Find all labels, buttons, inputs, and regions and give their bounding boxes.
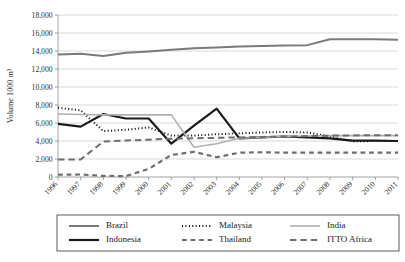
legend-item-thailand[interactable]: Thailand: [182, 234, 251, 244]
legend-item-india[interactable]: India: [290, 220, 346, 230]
x-tick-label: 2007: [292, 179, 309, 196]
legend-label: India: [327, 220, 346, 230]
x-tick-label: 2006: [269, 179, 286, 196]
series-line-indonesia: [58, 109, 398, 144]
y-tick-label: 4,000: [35, 137, 52, 146]
legend-item-brazil[interactable]: Brazil: [69, 220, 128, 230]
legend-item-indonesia[interactable]: Indonesia: [69, 234, 141, 244]
series-line-india: [58, 114, 398, 147]
legend-item-malaysia[interactable]: Malaysia: [182, 220, 252, 230]
x-tick-label: 2004: [224, 179, 241, 196]
series-line-thailand: [58, 152, 398, 176]
x-tick-label: 1996: [42, 179, 59, 196]
chart-figure: 02,0004,0006,0008,00010,00012,00014,0001…: [0, 0, 405, 262]
y-axis-tick-labels: 02,0004,0006,0008,00010,00012,00014,0001…: [32, 11, 53, 182]
y-tick-label: 12,000: [32, 65, 53, 74]
chart-legend: BrazilMalaysiaIndiaIndonesiaThailandITTO…: [57, 215, 399, 251]
gridlines-group: [58, 15, 398, 159]
legend-item-itto-africa[interactable]: ITTO Africa: [290, 234, 372, 244]
y-tick-label: 8,000: [35, 101, 52, 110]
data-series-group: [58, 39, 398, 176]
legend-label: ITTO Africa: [327, 234, 372, 244]
legend-label: Malaysia: [219, 220, 252, 230]
x-tick-label: 1998: [88, 179, 105, 196]
y-tick-label: 6,000: [35, 119, 52, 128]
x-tick-label: 2010: [360, 179, 377, 196]
legend-label: Thailand: [219, 234, 251, 244]
y-tick-label: 16,000: [32, 29, 53, 38]
legend-label: Indonesia: [106, 234, 141, 244]
x-tick-label: 1999: [110, 179, 127, 196]
x-tick-label: 2008: [314, 179, 331, 196]
x-tick-label: 2002: [178, 179, 195, 196]
x-tick-label: 2000: [133, 179, 150, 196]
y-tick-label: 18,000: [32, 11, 53, 20]
x-tick-label: 2005: [246, 179, 263, 196]
x-tick-label: 1997: [65, 179, 82, 196]
line-chart: 02,0004,0006,0008,00010,00012,00014,0001…: [0, 0, 405, 262]
x-axis-tick-labels: 1996199719981999200020012002200320042005…: [42, 179, 399, 196]
x-tick-label: 2009: [337, 179, 354, 196]
x-tick-label: 2003: [201, 179, 218, 196]
y-axis-title-text: Volume 1000 m³: [6, 68, 15, 123]
legend-label: Brazil: [106, 220, 128, 230]
y-axis-title: Volume 1000 m³: [6, 68, 15, 123]
y-tick-label: 10,000: [32, 83, 53, 92]
x-tick-label: 2011: [383, 179, 400, 196]
y-tick-label: 14,000: [32, 47, 53, 56]
y-tick-label: 2,000: [35, 155, 52, 164]
series-line-brazil: [58, 39, 398, 56]
x-tick-label: 2001: [156, 179, 173, 196]
